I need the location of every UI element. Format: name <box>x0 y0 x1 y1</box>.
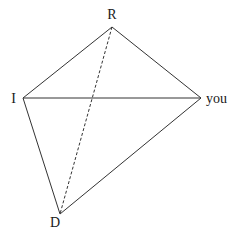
kite-diagram: R I you D <box>0 0 247 233</box>
node-label-you: you <box>206 91 227 106</box>
edges-group <box>23 27 201 214</box>
node-label-R: R <box>107 7 117 22</box>
node-label-D: D <box>50 215 60 230</box>
edge-I-D <box>23 98 60 214</box>
edge-R-you <box>112 27 201 98</box>
edge-R-I <box>23 27 112 98</box>
edge-D-you <box>60 98 201 214</box>
labels-group: R I you D <box>11 7 227 230</box>
node-label-I: I <box>11 91 16 106</box>
edge-R-D <box>60 27 112 214</box>
